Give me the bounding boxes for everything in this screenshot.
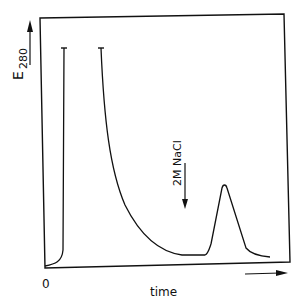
y-axis-arrow-head-icon xyxy=(27,20,33,32)
nacl-annotation: 2M NaCl xyxy=(171,140,184,186)
elution-peak xyxy=(211,185,270,257)
x-axis-arrow-head-icon xyxy=(276,270,288,276)
breakthrough-peak xyxy=(45,48,64,266)
y-axis-label: E 280 xyxy=(10,48,30,80)
svg-text:E: E xyxy=(10,71,26,80)
plot-frame xyxy=(40,14,290,268)
svg-text:280: 280 xyxy=(17,48,30,69)
decay-curve xyxy=(101,48,211,255)
x-axis-label: time xyxy=(150,285,177,299)
chromatogram-chart: 2M NaCl E 280 0 time xyxy=(0,0,298,305)
nacl-arrow-head-icon xyxy=(182,199,188,209)
x-origin-label: 0 xyxy=(42,277,50,291)
x-axis-arrow-line xyxy=(245,273,280,274)
